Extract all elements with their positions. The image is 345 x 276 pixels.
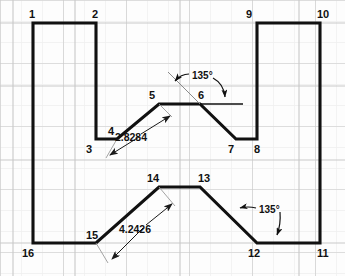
vertex-label-11: 11 <box>317 247 329 259</box>
dimension-value-2-8284: 2.8284 <box>115 131 147 143</box>
vertex-label-10: 10 <box>317 8 329 20</box>
vertex-label-12: 12 <box>248 247 260 259</box>
vertex-label-13: 13 <box>198 172 210 184</box>
vertex-label-16: 16 <box>22 247 34 259</box>
dimension-value-4-2426: 4.2426 <box>119 223 151 235</box>
vertex-label-3: 3 <box>86 143 92 155</box>
engineering-drawing: 2.8284 4.2426 135° 135° 1234567891011121… <box>0 0 345 276</box>
vertex-label-1: 1 <box>29 8 35 20</box>
vertex-label-5: 5 <box>149 89 155 101</box>
vertex-label-8: 8 <box>254 143 260 155</box>
vertex-label-15: 15 <box>86 229 98 241</box>
vertex-label-6: 6 <box>198 89 204 101</box>
vertex-label-4: 4 <box>108 125 115 137</box>
vertex-label-2: 2 <box>92 8 98 20</box>
vertex-label-14: 14 <box>147 172 160 184</box>
angle-value-lower: 135° <box>259 204 280 215</box>
vertex-label-7: 7 <box>228 143 234 155</box>
angle-value-upper: 135° <box>192 70 213 81</box>
vertex-label-9: 9 <box>246 8 252 20</box>
drawing-canvas: 2.8284 4.2426 135° 135° 1234567891011121… <box>0 0 345 276</box>
graph-paper-background <box>0 0 345 276</box>
